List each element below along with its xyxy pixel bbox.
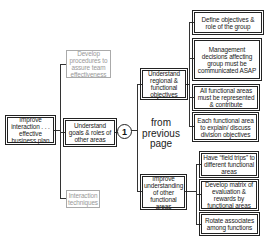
root-node-label: Improve interaction . . . effective busi… [9,116,52,144]
node-understand-regional: Understand regional & functional objecti… [142,70,186,98]
node-field-trips: Have “field trips” to different function… [201,153,257,176]
page-connector-circle: 1 [117,124,132,139]
node-develop-procedures-label: Develop procedures to assure team effect… [68,50,109,78]
node-understand-goals: Understand goals & roles of other areas [65,120,115,145]
node-rotate-associates: Rotate associates among functions [201,214,258,234]
node-develop-matrix-label: Develop matrix of evaluation & rewards b… [203,181,255,209]
node-field-trips-label: Have “field trips” to different function… [203,154,255,175]
node-management-decisions: Management decisions affecting group mus… [194,40,260,79]
node-understand-regional-label: Understand regional & functional objecti… [144,70,184,98]
node-define-objectives-label: Define objectives & role of the group [196,16,260,30]
node-each-functional-area-label: Each functional area to explain/ discuss… [196,117,255,138]
continuation-note: from previous page [141,118,181,150]
node-improve-understanding: Improve understanding of other functiona… [142,176,185,208]
node-improve-understanding-label: Improve understanding of other functiona… [144,175,183,210]
node-define-objectives: Define objectives & role of the group [194,12,262,33]
node-understand-goals-label: Understand goals & roles of other areas [67,122,113,143]
node-each-functional-area: Each functional area to explain/ discuss… [194,114,257,140]
node-interaction-techniques-label: Interaction techniques [68,192,98,206]
node-develop-procedures: Develop procedures to assure team effect… [66,50,111,78]
node-management-decisions-label: Management decisions affecting group mus… [196,46,258,74]
node-all-functional-areas-label: All functional areas must be represented… [196,87,256,108]
node-all-functional-areas: All functional areas must be represented… [194,86,258,109]
upper-right-trunk-line [189,22,190,127]
page-connector-number: 1 [122,127,127,137]
middle-trunk-line [137,84,138,192]
improve-to-trunk-line [185,191,196,192]
node-interaction-techniques: Interaction techniques [66,190,100,208]
node-develop-matrix: Develop matrix of evaluation & rewards b… [201,181,257,209]
node-rotate-associates-label: Rotate associates among functions [203,217,256,231]
continuation-note-text: from previous page [142,117,180,149]
root-node: Improve interaction . . . effective busi… [7,117,54,143]
